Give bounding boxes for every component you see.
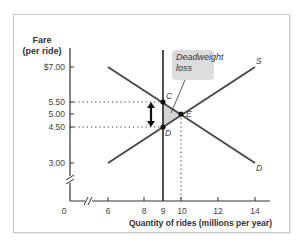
deadweight-loss-callout: Deadweight loss bbox=[172, 50, 214, 80]
xtick-label-14: 14 bbox=[250, 206, 260, 216]
point-d-label: D bbox=[165, 128, 171, 138]
price-wedge-arrow-icon bbox=[147, 102, 155, 127]
ytick-label-550: 5.50 bbox=[48, 97, 65, 107]
callout-line1: Deadweight bbox=[176, 52, 210, 63]
xtick-label-10: 10 bbox=[177, 206, 187, 216]
xtick-label-0: 0 bbox=[62, 206, 67, 216]
point-e-marker bbox=[178, 111, 183, 116]
ytick-label-300: 3.00 bbox=[48, 158, 65, 168]
ytick-label-500: 5.00 bbox=[48, 109, 65, 119]
point-e-label: E bbox=[186, 109, 192, 119]
ytick-label-700: $7.00 bbox=[44, 62, 66, 72]
xtick-label-6: 6 bbox=[106, 206, 111, 216]
demand-curve-label: D bbox=[256, 163, 262, 173]
callout-pointer bbox=[171, 80, 185, 113]
xtick-label-12: 12 bbox=[213, 206, 223, 216]
ytick-label-450: 4.50 bbox=[48, 122, 65, 132]
xtick-label-8: 8 bbox=[142, 206, 147, 216]
supply-curve-label: S bbox=[256, 56, 262, 66]
point-c-marker bbox=[160, 99, 165, 104]
callout-line2: loss bbox=[176, 63, 210, 74]
point-c-label: C bbox=[166, 91, 173, 101]
x-axis-title: Quantity of rides (millions per year) bbox=[129, 218, 272, 228]
y-axis-break bbox=[66, 175, 74, 184]
chart-plot: $7.00 5.50 5.00 4.50 3.00 0 6 8 9 10 12 … bbox=[0, 0, 298, 249]
xtick-label-9: 9 bbox=[161, 206, 166, 216]
x-axis-break bbox=[84, 197, 92, 205]
